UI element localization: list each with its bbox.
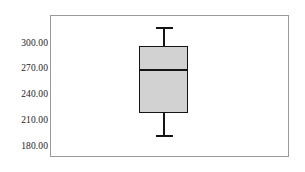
y-axis-tick-270: 270.00 [0, 62, 56, 74]
y-axis-tick-label: 300.00 [21, 37, 48, 49]
whisker-line-upper [163, 28, 165, 46]
whisker-cap-lower [156, 135, 173, 137]
y-axis-tick-label: 210.00 [21, 114, 48, 126]
y-axis-tick-180: 180.00 [0, 140, 56, 152]
y-axis-tick-300: 300.00 [0, 37, 56, 49]
box-body [139, 46, 188, 113]
median-line [139, 69, 188, 72]
y-axis-tick-label: 270.00 [21, 62, 48, 74]
y-axis-tick-label: 240.00 [21, 88, 48, 100]
boxplot-figure: 300.00 270.00 240.00 210.00 180.00 [0, 0, 305, 172]
y-axis-tick-label: 180.00 [21, 140, 48, 152]
y-axis-tick-210: 210.00 [0, 114, 56, 126]
whisker-line-lower [163, 113, 165, 136]
y-axis-tick-240: 240.00 [0, 88, 56, 100]
